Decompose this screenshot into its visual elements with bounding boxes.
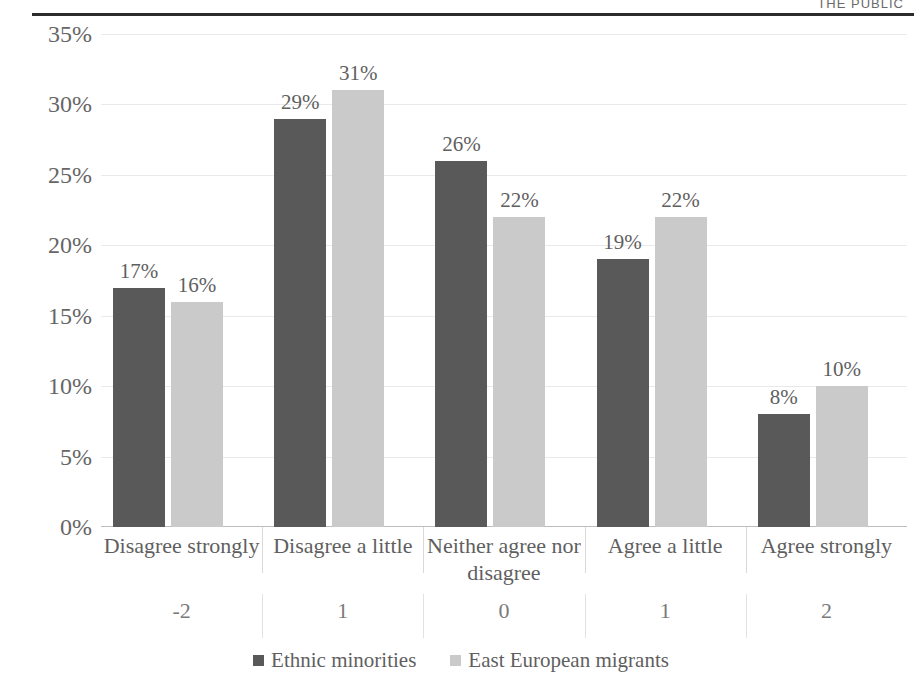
bar-value-label: 29% — [262, 92, 338, 113]
bar — [274, 119, 326, 527]
category-label: Agree strongly — [746, 532, 907, 559]
y-axis-tick-label: 15% — [20, 304, 92, 328]
bar-chart: 0%5%10%15%20%25%30%35% 17%16%29%31%26%22… — [0, 20, 922, 682]
bar-group: 8%10% — [746, 34, 907, 527]
chart-legend: Ethnic minoritiesEast European migrants — [0, 648, 922, 673]
y-axis-tick-label: 5% — [20, 445, 92, 469]
legend-label: Ethnic minorities — [271, 648, 416, 673]
bar — [597, 259, 649, 527]
bar-value-label: 10% — [804, 359, 880, 380]
bar — [113, 288, 165, 527]
y-axis-tick-label: 35% — [20, 22, 92, 46]
y-axis-tick-label: 25% — [20, 163, 92, 187]
secondary-axis-separator — [423, 594, 424, 638]
secondary-axis-label: -2 — [101, 598, 262, 624]
bar-value-label: 19% — [585, 232, 661, 253]
secondary-axis-labels: -21012 — [101, 598, 907, 638]
category-label: Disagree strongly — [101, 532, 262, 559]
legend-item[interactable]: East European migrants — [450, 648, 669, 673]
page-header-text: THE PUBLIC — [817, 0, 904, 11]
bar-value-label: 8% — [746, 387, 822, 408]
plot-area: 17%16%29%31%26%22%19%22%8%10% — [101, 34, 907, 527]
legend-swatch-icon — [253, 655, 264, 666]
secondary-axis-separator — [585, 594, 586, 638]
bar — [332, 90, 384, 527]
y-axis-tick-label: 30% — [20, 92, 92, 116]
bar-value-label: 16% — [159, 275, 235, 296]
y-axis-tick-label: 20% — [20, 233, 92, 257]
category-axis-labels: Disagree stronglyDisagree a littleNeithe… — [101, 532, 907, 594]
bar-value-label: 26% — [423, 134, 499, 155]
category-label: Neither agree nor disagree — [423, 532, 584, 586]
legend-item[interactable]: Ethnic minorities — [253, 648, 416, 673]
bar-group: 29%31% — [262, 34, 423, 527]
bar — [171, 302, 223, 527]
secondary-axis-label: 1 — [585, 598, 746, 624]
bar — [493, 217, 545, 527]
category-label: Agree a little — [585, 532, 746, 559]
secondary-axis-separator — [746, 594, 747, 638]
bar — [655, 217, 707, 527]
secondary-axis-label: 1 — [262, 598, 423, 624]
y-axis-tick-label: 10% — [20, 374, 92, 398]
secondary-axis-label: 2 — [746, 598, 907, 624]
legend-label: East European migrants — [468, 648, 669, 673]
header-rule — [32, 13, 914, 16]
bar-value-label: 31% — [320, 63, 396, 84]
bar-group: 26%22% — [423, 34, 584, 527]
secondary-axis-label: 0 — [423, 598, 584, 624]
legend-swatch-icon — [450, 655, 461, 666]
bar-value-label: 22% — [643, 190, 719, 211]
bar-value-label: 22% — [481, 190, 557, 211]
secondary-axis-separator — [262, 594, 263, 638]
bar — [758, 414, 810, 527]
bar-group: 19%22% — [585, 34, 746, 527]
category-label: Disagree a little — [262, 532, 423, 559]
y-axis-tick-label: 0% — [20, 515, 92, 539]
bar — [816, 386, 868, 527]
bar-group: 17%16% — [101, 34, 262, 527]
bar — [435, 161, 487, 527]
